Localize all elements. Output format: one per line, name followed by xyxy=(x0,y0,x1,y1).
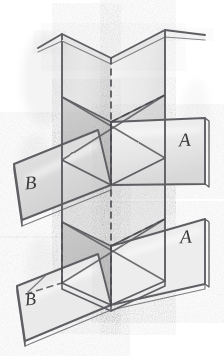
label-a-lower: A xyxy=(177,226,192,248)
smudge-upper-left xyxy=(22,34,66,126)
label-a-upper: A xyxy=(176,129,191,151)
sketch-canvas: A A B B xyxy=(0,0,224,356)
label-b-upper: B xyxy=(24,172,38,194)
label-b-lower: B xyxy=(24,289,37,310)
folded-panel-diagram: A A B B xyxy=(0,0,224,356)
